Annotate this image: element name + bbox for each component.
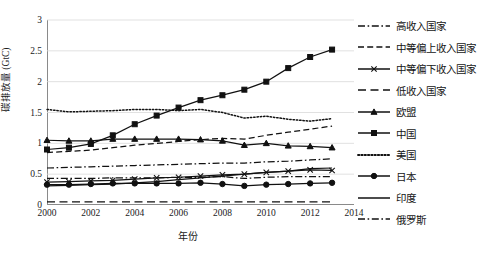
series-marker (220, 181, 225, 186)
y-tick-label: 2.5 (30, 46, 47, 56)
y-axis-title: 碳排放量 (GtC) (0, 47, 12, 112)
legend-label: 俄罗斯 (396, 212, 426, 227)
legend-label: 高收入国家 (396, 18, 446, 33)
legend-label: 中国 (396, 126, 416, 141)
legend-label: 中等偏上收入国家 (396, 40, 476, 55)
legend-label: 日本 (396, 169, 416, 184)
x-tick-label: 2002 (81, 205, 100, 218)
x-tick-label: 2010 (257, 205, 276, 218)
y-tick-label: 3 (37, 15, 47, 25)
legend-label: 美国 (396, 147, 416, 162)
chart-legend: 高收入国家中等偏上收入国家中等偏下收入国家低收入国家欧盟中国美国日本印度俄罗斯 (357, 15, 482, 230)
x-tick-label: 2004 (125, 205, 144, 218)
series-marker (176, 181, 181, 186)
y-tick-label: 1 (37, 138, 47, 148)
series-line (47, 50, 332, 150)
legend-item[interactable]: 低收入国家 (357, 80, 482, 102)
series-marker (44, 182, 49, 187)
legend-key-square-marker-icon (357, 126, 391, 140)
chart-svg (47, 20, 354, 205)
series-marker (220, 93, 225, 98)
series-marker (307, 181, 312, 186)
series-marker (329, 180, 334, 185)
x-axis-title: 年份 (178, 228, 198, 243)
series-marker (198, 98, 203, 103)
series-marker (264, 182, 269, 187)
series-marker (286, 181, 291, 186)
chart-page: 00.511.522.53 20002002200420062008201020… (0, 0, 482, 255)
x-tick-label: 2012 (301, 205, 320, 218)
legend-item[interactable]: 欧盟 (357, 101, 482, 123)
legend-key-dashed-line-icon (357, 40, 391, 54)
x-tick-label: 2006 (169, 205, 188, 218)
legend-item[interactable]: 高收入国家 (357, 15, 482, 37)
series-marker (286, 66, 291, 71)
series-marker (154, 113, 159, 118)
series-marker (308, 55, 313, 60)
series-marker (242, 87, 247, 92)
y-tick-label: 0.5 (30, 169, 47, 179)
legend-key-dash-dot-line-icon (357, 19, 391, 33)
legend-label: 中等偏下收入国家 (396, 61, 476, 76)
legend-key-dash-dot-line-icon (357, 212, 391, 226)
legend-key-long-dash-line-icon (357, 83, 391, 97)
series-marker (176, 105, 181, 110)
x-tick-label: 2008 (213, 205, 232, 218)
series-marker (330, 47, 335, 52)
y-tick-label: 2 (37, 77, 47, 87)
series-marker (264, 79, 269, 84)
series-marker (110, 133, 115, 138)
x-tick-label: 2000 (38, 205, 57, 218)
legend-key-solid-line-icon (357, 191, 391, 205)
legend-label: 低收入国家 (396, 83, 446, 98)
legend-item[interactable]: 美国 (357, 144, 482, 166)
legend-key-triangle-marker-icon (357, 105, 391, 119)
legend-key-dotted-line-icon (357, 148, 391, 162)
chart-plot-area: 00.511.522.53 20002002200420062008201020… (47, 20, 354, 205)
legend-key-cross-marker-icon (357, 62, 391, 76)
series-marker (198, 180, 203, 185)
series-marker (88, 141, 93, 146)
series-line (47, 109, 332, 121)
series-line (47, 159, 332, 168)
legend-item[interactable]: 中等偏下收入国家 (357, 58, 482, 80)
legend-item[interactable]: 中国 (357, 123, 482, 145)
series-marker (242, 183, 247, 188)
legend-key-circle-marker-icon (357, 169, 391, 183)
legend-item[interactable]: 俄罗斯 (357, 209, 482, 231)
legend-item[interactable]: 日本 (357, 166, 482, 188)
legend-item[interactable]: 中等偏上收入国家 (357, 37, 482, 59)
legend-label: 欧盟 (396, 104, 416, 119)
series-marker (132, 122, 137, 127)
legend-label: 印度 (396, 190, 416, 205)
series-marker (66, 145, 71, 150)
y-tick-label: 1.5 (30, 108, 47, 118)
legend-item[interactable]: 印度 (357, 187, 482, 209)
